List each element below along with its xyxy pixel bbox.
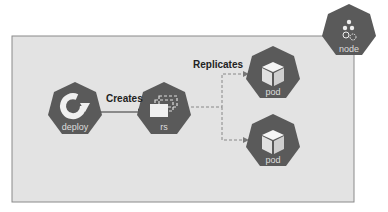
replicates-label: Replicates	[193, 59, 243, 70]
kubernetes-diagram: deploy rs pod pod	[0, 0, 388, 212]
creates-label: Creates	[106, 93, 143, 104]
pod1-label: pod	[265, 87, 280, 97]
node-label: node	[339, 44, 359, 54]
pod2-label: pod	[265, 155, 280, 165]
rs-label: rs	[160, 122, 168, 132]
deploy-label: deploy	[62, 122, 89, 132]
